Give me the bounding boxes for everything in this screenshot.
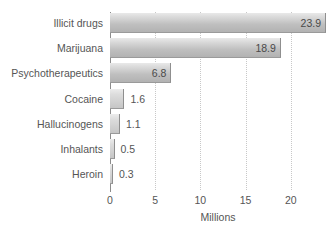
x-tick-label: 0 bbox=[107, 194, 113, 206]
bar-chart: Illicit drugs23.9Marijuana18.9Psychother… bbox=[0, 0, 336, 232]
category-label: Heroin bbox=[72, 164, 103, 184]
x-tick-label: 20 bbox=[285, 194, 297, 206]
x-tick-label: 5 bbox=[152, 194, 158, 206]
x-tick-label: 15 bbox=[240, 194, 252, 206]
bars-container: Illicit drugs23.9Marijuana18.9Psychother… bbox=[110, 12, 326, 190]
bar bbox=[110, 164, 113, 184]
value-label: 23.9 bbox=[301, 13, 321, 33]
bar-row: Hallucinogens1.1 bbox=[110, 114, 326, 134]
category-label: Cocaine bbox=[64, 89, 103, 109]
bar-row: Heroin0.3 bbox=[110, 164, 326, 184]
category-label: Psychotherapeutics bbox=[11, 63, 103, 83]
x-tick-label: 10 bbox=[195, 194, 207, 206]
value-label: 1.6 bbox=[130, 89, 145, 109]
bar bbox=[110, 114, 120, 134]
bar bbox=[110, 89, 124, 109]
bar-row: Psychotherapeutics6.8 bbox=[110, 63, 326, 83]
bar-row: Cocaine1.6 bbox=[110, 89, 326, 109]
category-label: Inhalants bbox=[60, 139, 103, 159]
value-label: 18.9 bbox=[255, 38, 275, 58]
value-label: 1.1 bbox=[126, 114, 141, 134]
x-axis-title: Millions bbox=[110, 211, 326, 223]
category-label: Marijuana bbox=[57, 38, 103, 58]
category-label: Illicit drugs bbox=[53, 13, 103, 33]
value-label: 0.5 bbox=[121, 139, 136, 159]
category-label: Hallucinogens bbox=[37, 114, 103, 134]
bar bbox=[110, 139, 115, 159]
bar-row: Marijuana18.9 bbox=[110, 38, 326, 58]
bar-row: Inhalants0.5 bbox=[110, 139, 326, 159]
bar bbox=[110, 13, 326, 33]
bar-row: Illicit drugs23.9 bbox=[110, 13, 326, 33]
value-label: 6.8 bbox=[152, 63, 167, 83]
value-label: 0.3 bbox=[119, 164, 134, 184]
